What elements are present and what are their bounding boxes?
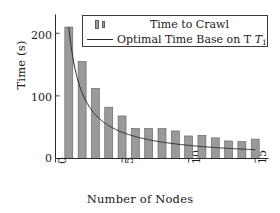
bar-10 <box>185 136 193 159</box>
chart-figure: Time (s) 0 100 200 0 5 10 15 Number of N… <box>0 0 280 213</box>
bar-5 <box>118 116 126 159</box>
bar-15 <box>251 139 259 158</box>
bar-3 <box>91 88 99 158</box>
bar-2 <box>78 61 86 158</box>
legend-entry-bars: Time to Crawl <box>83 17 267 32</box>
legend-entry-line: Optimal Time Base on T T1 <box>83 32 267 47</box>
legend-label-optimal-time-text: Optimal Time Base on T <box>117 33 251 46</box>
bar-14 <box>238 142 246 159</box>
legend-bar-swatch-icon <box>83 20 117 29</box>
bar-13 <box>225 141 233 159</box>
bar-4 <box>105 107 113 158</box>
bar-7 <box>145 128 153 158</box>
legend-label-time-to-crawl: Time to Crawl <box>117 18 267 31</box>
legend-label-optimal-time-subscript: 1 <box>262 38 267 47</box>
bar-6 <box>131 128 139 158</box>
chart-legend: Time to Crawl Optimal Time Base on T T1 <box>82 15 268 47</box>
legend-label-optimal-time: Optimal Time Base on T T1 <box>117 33 272 46</box>
legend-line-swatch-icon <box>83 39 117 40</box>
bar-8 <box>158 128 166 158</box>
